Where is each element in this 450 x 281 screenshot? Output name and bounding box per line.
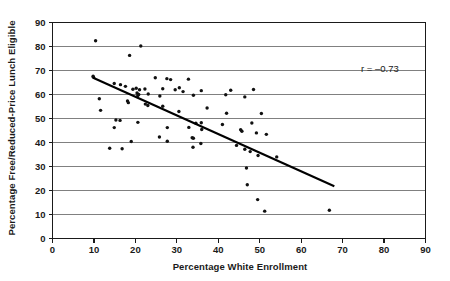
x-axis-tick-label: 80 bbox=[379, 244, 390, 255]
data-point bbox=[240, 130, 243, 133]
correlation-annotation: r = –0.73 bbox=[361, 63, 399, 74]
data-point bbox=[114, 118, 117, 121]
data-point bbox=[187, 126, 190, 129]
x-axis-tick-label: 90 bbox=[420, 244, 431, 255]
x-axis-tick-label: 10 bbox=[89, 244, 100, 255]
data-point bbox=[248, 150, 251, 153]
y-axis-tick-label: 90 bbox=[35, 17, 46, 28]
data-point bbox=[173, 88, 176, 91]
y-axis-tick-label: 60 bbox=[35, 89, 46, 100]
data-point bbox=[119, 83, 122, 86]
data-point bbox=[154, 76, 157, 79]
data-point bbox=[199, 142, 202, 145]
data-point bbox=[139, 44, 142, 47]
data-point bbox=[130, 140, 133, 143]
data-point bbox=[225, 112, 228, 115]
x-axis-tick-labels: 0102030405060708090 bbox=[50, 244, 431, 255]
data-point bbox=[187, 77, 190, 80]
data-point bbox=[143, 87, 146, 90]
data-point bbox=[243, 95, 246, 98]
x-axis-tick-label: 40 bbox=[213, 244, 224, 255]
y-axis-tick-label: 70 bbox=[35, 65, 46, 76]
data-point bbox=[252, 88, 255, 91]
gridlines-group bbox=[53, 23, 426, 215]
data-point bbox=[166, 140, 169, 143]
regression-line bbox=[93, 78, 334, 186]
data-point bbox=[98, 97, 101, 100]
data-point bbox=[256, 198, 259, 201]
data-point bbox=[265, 133, 268, 136]
data-point bbox=[113, 126, 116, 129]
data-point bbox=[147, 92, 150, 95]
x-axis-tick-label: 50 bbox=[254, 244, 265, 255]
y-axis-tick-label: 30 bbox=[35, 161, 46, 172]
data-point bbox=[158, 94, 161, 97]
plot-frame bbox=[53, 23, 426, 239]
data-point bbox=[275, 155, 278, 158]
data-point bbox=[120, 147, 123, 150]
data-point bbox=[118, 119, 121, 122]
data-point bbox=[260, 112, 263, 115]
data-point bbox=[146, 104, 149, 107]
data-point bbox=[128, 54, 131, 57]
scatter-plot-figure: 0102030405060708090 0102030405060708090 … bbox=[0, 0, 450, 281]
data-points-group bbox=[91, 39, 331, 213]
data-point bbox=[256, 154, 259, 157]
x-axis-tick-label: 60 bbox=[296, 244, 307, 255]
y-axis-tick-label: 10 bbox=[35, 209, 46, 220]
x-axis-tick-label: 20 bbox=[130, 244, 141, 255]
data-point bbox=[250, 121, 253, 124]
x-axis-tick-label: 70 bbox=[337, 244, 348, 255]
data-point bbox=[127, 101, 130, 104]
data-point bbox=[108, 147, 111, 150]
data-point bbox=[178, 86, 181, 89]
data-point bbox=[263, 209, 266, 212]
data-point bbox=[191, 146, 194, 149]
data-point bbox=[192, 94, 195, 97]
data-point bbox=[177, 110, 180, 113]
data-point bbox=[328, 208, 331, 211]
data-point bbox=[138, 88, 141, 91]
y-axis-tick-label: 0 bbox=[40, 233, 45, 244]
y-axis-tick-label: 50 bbox=[35, 113, 46, 124]
data-point bbox=[113, 82, 116, 85]
y-axis-tick-label: 20 bbox=[35, 185, 46, 196]
data-point bbox=[169, 78, 172, 81]
data-point bbox=[200, 121, 203, 124]
data-point bbox=[124, 85, 127, 88]
data-point bbox=[158, 135, 161, 138]
trend-line-group bbox=[93, 78, 334, 186]
x-axis-title: Percentage White Enrollment bbox=[173, 261, 308, 272]
y-axis-tick-label: 80 bbox=[35, 41, 46, 52]
y-axis-title: Percentage Free/Reduced-Price Lunch Elig… bbox=[6, 20, 17, 235]
data-point bbox=[161, 87, 164, 90]
data-point bbox=[200, 128, 203, 131]
data-point bbox=[205, 106, 208, 109]
annotations-group: r = –0.73 bbox=[361, 63, 399, 74]
data-point bbox=[200, 89, 203, 92]
data-point bbox=[235, 144, 238, 147]
data-point bbox=[94, 39, 97, 42]
data-point bbox=[224, 93, 227, 96]
x-axis-tick-label: 0 bbox=[50, 244, 55, 255]
data-point bbox=[137, 93, 140, 96]
data-point bbox=[181, 90, 184, 93]
data-point bbox=[99, 109, 102, 112]
data-point bbox=[246, 183, 249, 186]
data-point bbox=[166, 126, 169, 129]
y-axis-tick-labels: 0102030405060708090 bbox=[35, 17, 46, 244]
data-point bbox=[165, 77, 168, 80]
y-axis-tick-label: 40 bbox=[35, 137, 46, 148]
chart-canvas: 0102030405060708090 0102030405060708090 … bbox=[0, 0, 450, 281]
data-point bbox=[229, 88, 232, 91]
data-point bbox=[243, 148, 246, 151]
data-point bbox=[245, 166, 248, 169]
x-axis-tick-label: 30 bbox=[172, 244, 183, 255]
data-point bbox=[221, 123, 224, 126]
data-point bbox=[131, 88, 134, 91]
data-point bbox=[136, 121, 139, 124]
data-point bbox=[192, 136, 195, 139]
data-point bbox=[255, 131, 258, 134]
data-point bbox=[135, 87, 138, 90]
